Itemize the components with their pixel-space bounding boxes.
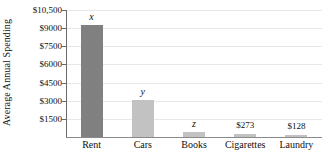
y-axis-tick-label: $9000 [40, 24, 63, 33]
gridline [66, 83, 322, 84]
y-axis-tick-mark [61, 119, 67, 120]
y-axis-title-text: Average Annual Spending [2, 19, 13, 126]
y-axis-tick-label: $7500 [40, 42, 63, 51]
bar [132, 100, 154, 137]
x-axis-category-label: Cars [134, 139, 152, 150]
bar-value-label: x [89, 12, 93, 22]
x-axis-category-label: Books [181, 139, 207, 150]
y-axis-title: Average Annual Spending [0, 0, 14, 145]
bar-value-label: y [141, 87, 145, 97]
gridline [66, 64, 322, 65]
bar-chart-figure: Average Annual Spending $1500$3000$4500$… [0, 0, 324, 161]
y-axis-tick-label: $4500 [40, 78, 63, 87]
gridline [66, 28, 322, 29]
y-axis-tick-mark [61, 28, 67, 29]
y-axis-tick-mark [61, 10, 67, 11]
y-axis-tick-label: $3000 [40, 96, 63, 105]
y-axis-tick-label: $10,500 [33, 6, 62, 15]
x-axis-line [66, 137, 322, 138]
y-axis-tick-label: $6000 [40, 60, 63, 69]
bar-value-label: $273 [236, 121, 254, 130]
bar [234, 134, 256, 137]
plot-area: xyz$273$128 [66, 10, 322, 137]
bar [81, 25, 103, 137]
y-axis-tick-mark [61, 101, 67, 102]
bar [285, 135, 307, 137]
gridline [66, 101, 322, 102]
bar-value-label: $128 [287, 122, 305, 131]
gridline [66, 10, 322, 11]
bar [183, 132, 205, 137]
x-axis-category-label: Cigarettes [225, 139, 266, 150]
y-axis-tick-mark [61, 64, 67, 65]
bar-value-label: z [192, 119, 196, 129]
x-axis-category-label: Rent [82, 139, 101, 150]
y-axis-tick-labels: $1500$3000$4500$6000$7500$9000$10,500 [14, 0, 64, 140]
x-axis-category-label: Laundry [279, 139, 313, 150]
y-axis-tick-mark [61, 83, 67, 84]
y-axis-tick-label: $1500 [40, 114, 63, 123]
y-axis-tick-mark [61, 46, 67, 47]
x-axis-category-labels: RentCarsBooksCigarettesLaundry [66, 139, 322, 159]
gridline [66, 46, 322, 47]
